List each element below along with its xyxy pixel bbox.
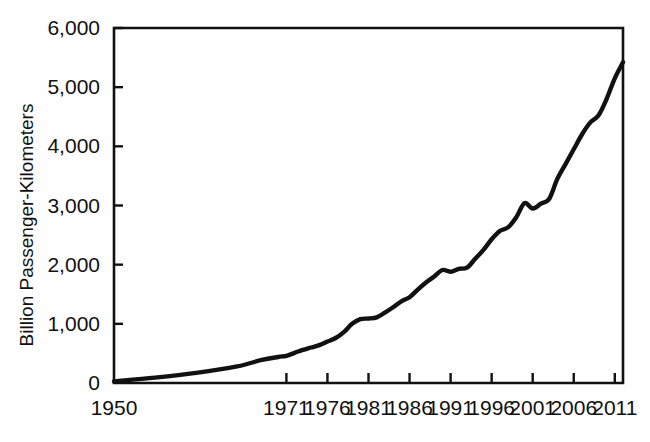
line-chart: 01,0002,0003,0004,0005,0006,000 19501971… (0, 0, 650, 442)
y-tick-label: 1,000 (47, 312, 100, 335)
y-tick-label: 0 (88, 371, 100, 394)
x-tick-label: 2001 (509, 396, 556, 419)
x-tick-label: 1996 (468, 396, 515, 419)
x-tick-label: 1986 (386, 396, 433, 419)
x-tick-label: 1991 (427, 396, 474, 419)
x-tick-label: 1971 (263, 396, 310, 419)
x-tick-label: 2011 (592, 396, 637, 419)
chart-figure: 01,0002,0003,0004,0005,0006,000 19501971… (0, 0, 650, 442)
x-tick-label: 1981 (345, 396, 392, 419)
y-tick-label: 2,000 (47, 253, 100, 276)
x-tick-label: 1976 (304, 396, 351, 419)
y-tick-label: 6,000 (47, 16, 100, 39)
y-tick-label: 5,000 (47, 75, 100, 98)
y-tick-label: 4,000 (47, 134, 100, 157)
x-tick-label: 1950 (91, 396, 138, 419)
x-tick-label: 2006 (550, 396, 597, 419)
y-axis-title: Billion Passenger-Kilometers (16, 104, 37, 347)
y-tick-label: 3,000 (47, 194, 100, 217)
